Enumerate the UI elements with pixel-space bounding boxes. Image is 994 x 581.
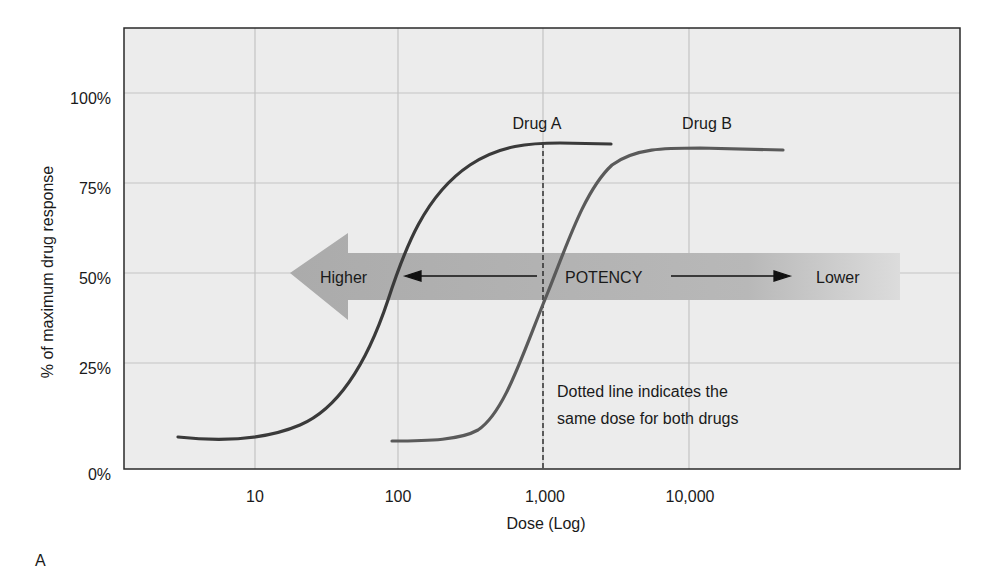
potency-higher-label: Higher [320, 269, 368, 286]
dotted-line-note-line1: Dotted line indicates the [557, 383, 728, 400]
drug-b-label: Drug B [682, 115, 732, 132]
y-tick-75: 75% [79, 180, 111, 197]
potency-lower-label: Lower [816, 269, 860, 286]
x-tick-1000: 1,000 [525, 488, 565, 505]
y-tick-50: 50% [79, 270, 111, 287]
panel-label: A [35, 552, 46, 570]
x-tick-labels: 10 100 1,000 10,000 [246, 488, 714, 505]
plot-area [124, 28, 960, 469]
y-tick-0: 0% [88, 466, 111, 483]
y-tick-labels: 100% 75% 50% 25% 0% [70, 90, 111, 483]
chart-svg: 100% 75% 50% 25% 0% 10 100 1,000 10,000 … [0, 0, 994, 581]
dotted-line-note-line2: same dose for both drugs [557, 410, 738, 427]
x-tick-10: 10 [246, 488, 264, 505]
drug-a-label: Drug A [513, 115, 562, 132]
y-tick-25: 25% [79, 360, 111, 377]
potency-label: POTENCY [565, 269, 643, 286]
x-tick-100: 100 [385, 488, 412, 505]
chart: 100% 75% 50% 25% 0% 10 100 1,000 10,000 … [0, 0, 994, 581]
x-axis-title: Dose (Log) [506, 515, 585, 532]
y-tick-100: 100% [70, 90, 111, 107]
y-axis-title: % of maximum drug response [39, 166, 56, 379]
x-tick-10000: 10,000 [666, 488, 715, 505]
